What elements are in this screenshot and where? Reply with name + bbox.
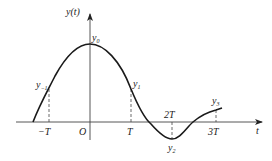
label-y2: y2 <box>167 142 175 154</box>
svg-text:y−1: y−1 <box>35 79 48 91</box>
origin-label: O <box>79 126 86 137</box>
svg-text:y0: y0 <box>91 32 99 44</box>
svg-text:y1: y1 <box>132 78 140 90</box>
label-y-minus-1: y−1 <box>35 79 48 91</box>
tick-minus-T: −T <box>38 126 52 137</box>
signal-diagram: y(t) t O −T T 2T 3T y−1 y0 y1 y2 y3 <box>0 0 272 161</box>
label-y3: y3 <box>211 95 219 107</box>
tick-3T: 3T <box>207 126 220 137</box>
label-y0: y0 <box>91 32 99 44</box>
t-axis-label: t <box>256 125 259 136</box>
label-y1: y1 <box>132 78 140 90</box>
tick-T: T <box>127 126 134 137</box>
svg-text:y2: y2 <box>167 142 175 154</box>
y-axis-label: y(t) <box>65 6 81 18</box>
svg-text:y3: y3 <box>211 95 219 107</box>
signal-curve <box>33 44 222 139</box>
tick-2T: 2T <box>164 109 176 120</box>
